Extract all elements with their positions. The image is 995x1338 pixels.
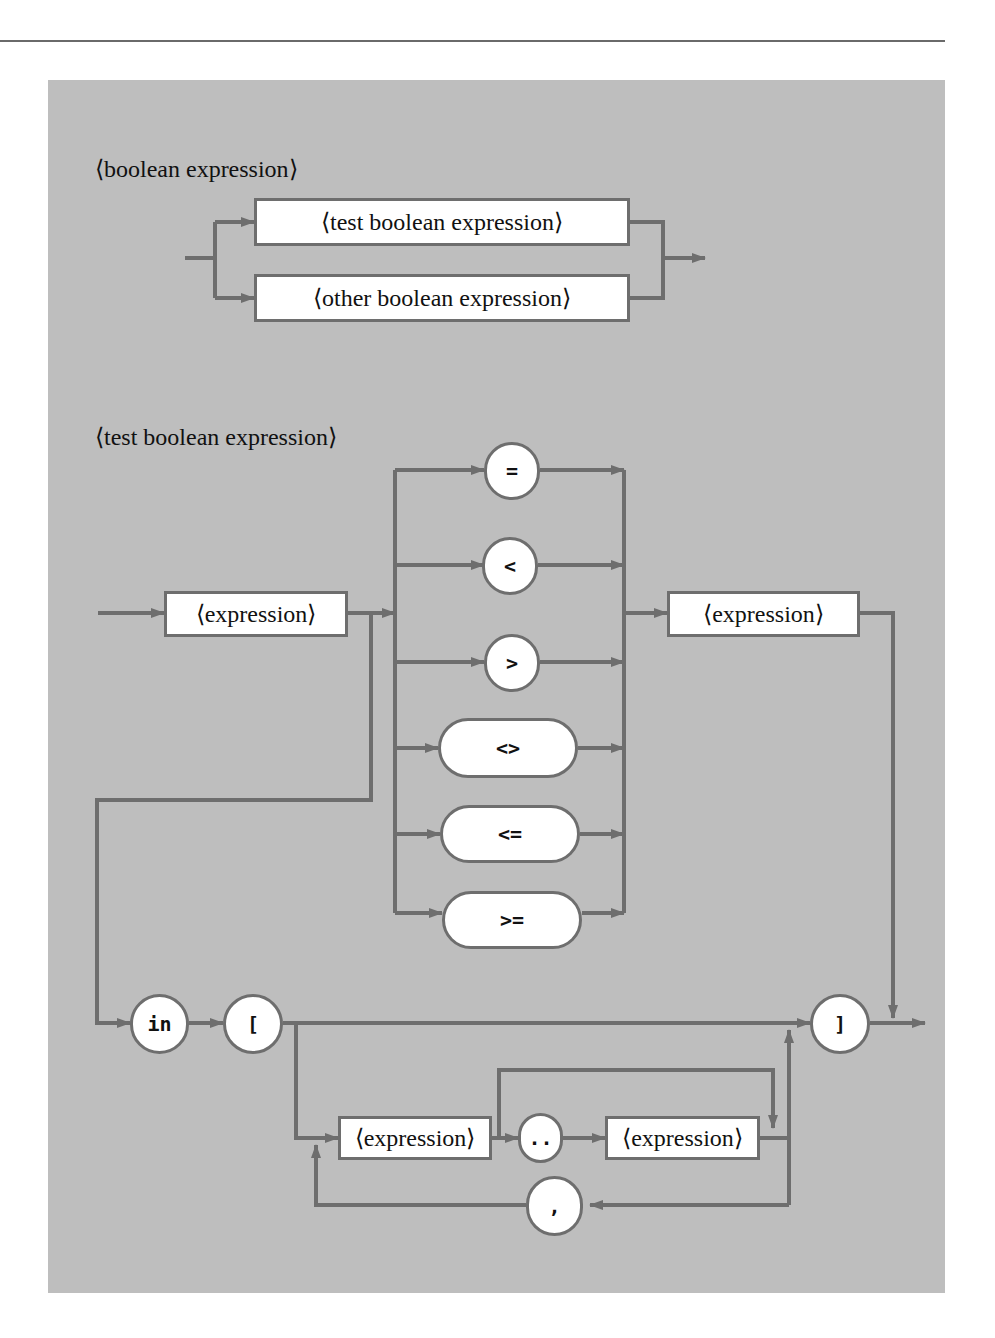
equals-operator: = — [484, 442, 540, 500]
right-expression-box: ⟨expression⟩ — [667, 591, 860, 637]
left-expression-box: ⟨expression⟩ — [164, 591, 348, 637]
not-equal-operator: <> — [438, 718, 578, 778]
open-bracket-terminal: [ — [223, 994, 283, 1054]
close-bracket-terminal: ] — [810, 994, 870, 1054]
test-boolean-expression-box: ⟨test boolean expression⟩ — [254, 198, 630, 246]
greater-equal-operator: >= — [442, 891, 582, 949]
test-boolean-expression-title: ⟨test boolean expression⟩ — [95, 423, 337, 451]
boolean-expression-title: ⟨boolean expression⟩ — [95, 155, 298, 183]
comma-terminal: , — [526, 1176, 583, 1236]
range-dots-terminal: .. — [518, 1113, 563, 1163]
in-keyword: in — [130, 994, 189, 1054]
greater-than-operator: > — [484, 634, 540, 692]
other-boolean-expression-box: ⟨other boolean expression⟩ — [254, 274, 630, 322]
range-start-expression-box: ⟨expression⟩ — [338, 1116, 492, 1160]
range-end-expression-box: ⟨expression⟩ — [605, 1116, 760, 1160]
less-equal-operator: <= — [440, 805, 580, 863]
less-than-operator: < — [482, 537, 538, 595]
